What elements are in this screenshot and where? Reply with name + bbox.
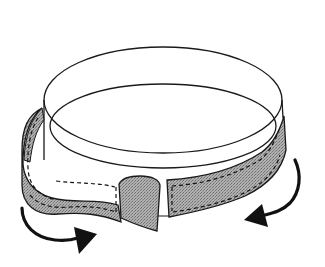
illustration-canvas: Band with hook-and-loop strap being wrap… — [0, 0, 325, 267]
strap-tab — [119, 176, 160, 231]
arrow-left-icon — [22, 208, 97, 254]
band-strap-illustration — [0, 0, 325, 267]
